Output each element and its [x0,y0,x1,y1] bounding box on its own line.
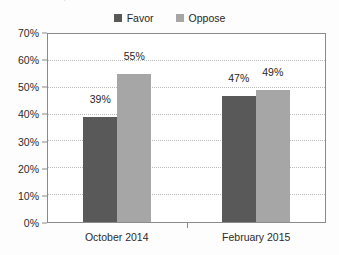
bar-favor[interactable]: 39% [83,34,117,222]
y-axis-label: 30% [18,136,39,148]
legend-swatch-icon [176,14,184,22]
x-axis-tick [187,223,188,228]
chart-legend: Favor Oppose [0,13,339,24]
x-axis-category-label: February 2015 [187,223,327,253]
y-axis-label: 50% [18,81,39,93]
bar-value-label: 39% [90,93,111,105]
legend-label-oppose: Oppose [189,13,226,24]
bar-oppose[interactable]: 49% [256,34,290,222]
bar-group: 47%49% [187,34,326,222]
bar-groups: 39%55%47%49% [48,34,325,222]
bar-rect [256,90,290,222]
bar-rect [83,117,117,222]
y-axis-label: 40% [18,108,39,120]
y-axis-label: 70% [18,27,39,39]
x-axis-category-label: October 2014 [47,223,187,253]
chart-plot-area: 39%55%47%49% [47,33,326,223]
bar-group: 39%55% [48,34,187,222]
bar-rect [117,74,151,222]
legend-item-oppose: Oppose [176,13,226,24]
y-axis: 0%10%20%30%40%50%60%70% [0,33,47,223]
legend-swatch-icon [114,14,122,22]
y-axis-label: 20% [18,163,39,175]
bar-rect [222,96,256,222]
source-caption: Research Center, 2015 [2,0,86,2]
legend-label-favor: Favor [127,13,154,24]
bar-value-label: 47% [228,72,249,84]
y-axis-label: 60% [18,54,39,66]
legend-item-favor: Favor [114,13,154,24]
y-axis-label: 0% [24,217,39,229]
y-axis-label: 10% [18,190,39,202]
bar-value-label: 55% [124,50,145,62]
bar-value-label: 49% [262,66,283,78]
bar-favor[interactable]: 47% [222,34,256,222]
bar-oppose[interactable]: 55% [117,34,151,222]
x-axis: October 2014February 2015 [47,223,326,253]
